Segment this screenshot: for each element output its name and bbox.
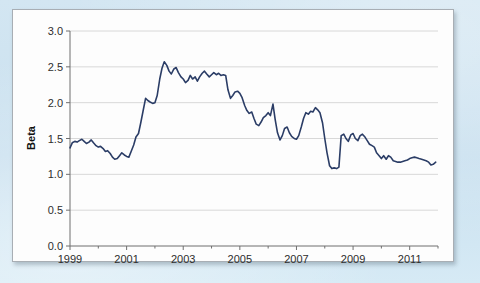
figure-panel: 0.00.51.01.52.02.53.0 199920012003200520…	[12, 9, 454, 262]
page-background: 0.00.51.01.52.02.53.0 199920012003200520…	[0, 0, 480, 283]
x-tick-label: 2005	[228, 253, 252, 263]
y-tick-label: 0.5	[48, 204, 63, 216]
y-tick-label: 2.5	[48, 61, 63, 73]
beta-line-chart: 0.00.51.01.52.02.53.0 199920012003200520…	[13, 10, 455, 263]
y-tick-label: 1.0	[48, 168, 63, 180]
y-tick-label: 1.5	[48, 133, 63, 145]
x-tick-label: 2009	[341, 253, 365, 263]
x-tick-label: 2007	[284, 253, 308, 263]
y-axis-title: Beta	[25, 125, 37, 150]
x-tick-label: 2003	[171, 253, 195, 263]
y-tick-label: 2.0	[48, 97, 63, 109]
y-tick-label: 0.0	[48, 240, 63, 252]
x-axis-ticks: 1999200120032005200720092011	[58, 246, 438, 263]
x-tick-label: 1999	[58, 253, 82, 263]
beta-series-line	[70, 62, 436, 169]
x-tick-label: 2011	[398, 253, 422, 263]
y-axis-ticks: 0.00.51.01.52.02.53.0	[48, 25, 70, 252]
x-tick-label: 2001	[114, 253, 138, 263]
y-tick-label: 3.0	[48, 25, 63, 37]
